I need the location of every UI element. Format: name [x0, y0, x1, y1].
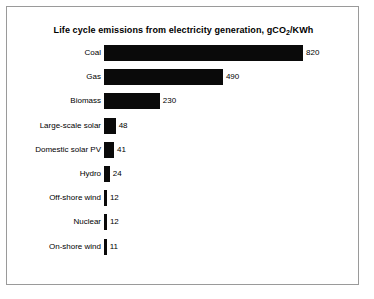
category-label: Biomass	[70, 96, 101, 106]
bar-row: Large-scale solar48	[7, 118, 360, 134]
category-label: Large-scale solar	[40, 121, 101, 131]
category-label: Coal	[85, 48, 101, 58]
bar	[104, 142, 114, 158]
bar	[104, 166, 110, 182]
category-label: Domestic solar PV	[35, 145, 101, 155]
bar-row: Nuclear12	[7, 214, 360, 230]
bar-value-label: 820	[306, 48, 319, 58]
bar-value-label: 11	[110, 242, 118, 252]
bar	[104, 190, 107, 206]
bar-value-label: 12	[110, 217, 119, 227]
category-label: Gas	[86, 72, 101, 82]
bar-row: Hydro24	[7, 166, 360, 182]
bar-value-label: 24	[113, 169, 122, 179]
bar-row: Coal820	[7, 45, 360, 61]
bar-row: Off-shore wind12	[7, 190, 360, 206]
chart-frame: Life cycle emissions from electricity ge…	[6, 6, 359, 285]
bar	[104, 214, 107, 230]
category-label: On-shore wind	[49, 242, 101, 252]
bar	[104, 45, 303, 61]
bar-row: Domestic solar PV41	[7, 142, 360, 158]
chart-page: Life cycle emissions from electricity ge…	[0, 0, 374, 299]
bar-plot-area: Coal820Gas490Biomass230Large-scale solar…	[7, 7, 360, 286]
bar-row: On-shore wind11	[7, 239, 360, 255]
bar-row: Biomass230	[7, 93, 360, 109]
bar-value-label: 41	[117, 145, 126, 155]
bar-value-label: 12	[110, 193, 119, 203]
bar	[104, 93, 160, 109]
category-label: Nuclear	[73, 217, 101, 227]
bar	[104, 239, 107, 255]
bar-row: Gas490	[7, 69, 360, 85]
category-label: Hydro	[80, 169, 101, 179]
bar-value-label: 48	[119, 121, 128, 131]
category-label: Off-shore wind	[49, 193, 101, 203]
bar	[104, 118, 116, 134]
bar-value-label: 230	[163, 96, 176, 106]
bar	[104, 69, 223, 85]
bar-value-label: 490	[226, 72, 239, 82]
